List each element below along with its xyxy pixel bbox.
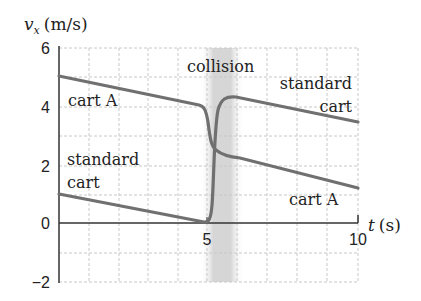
x-axis-title: t(s) xyxy=(368,215,401,235)
velocity-chart: vx(m/s) 6 4 2 0 −2 5 10 t(s) collision c… xyxy=(0,0,421,301)
y-tick-2: 2 xyxy=(41,158,50,175)
y-tick-4: 4 xyxy=(41,99,50,116)
label-collision: collision xyxy=(187,57,254,76)
y-axis-title: vx(m/s) xyxy=(24,14,88,37)
label-standard-left-2: cart xyxy=(67,173,100,192)
label-standard-left-1: standard xyxy=(67,150,139,169)
label-standard-right-2: cart xyxy=(319,97,352,116)
y-tick-neg2: −2 xyxy=(32,274,50,291)
x-tick-label-5: 5 xyxy=(203,231,212,248)
x-tick-label-10: 10 xyxy=(349,231,367,248)
label-cart-a-left: cart A xyxy=(68,91,118,110)
y-tick-6: 6 xyxy=(41,40,50,57)
label-standard-right-1: standard xyxy=(280,74,352,93)
label-cart-a-right: cart A xyxy=(289,190,339,209)
y-tick-0: 0 xyxy=(41,215,50,232)
